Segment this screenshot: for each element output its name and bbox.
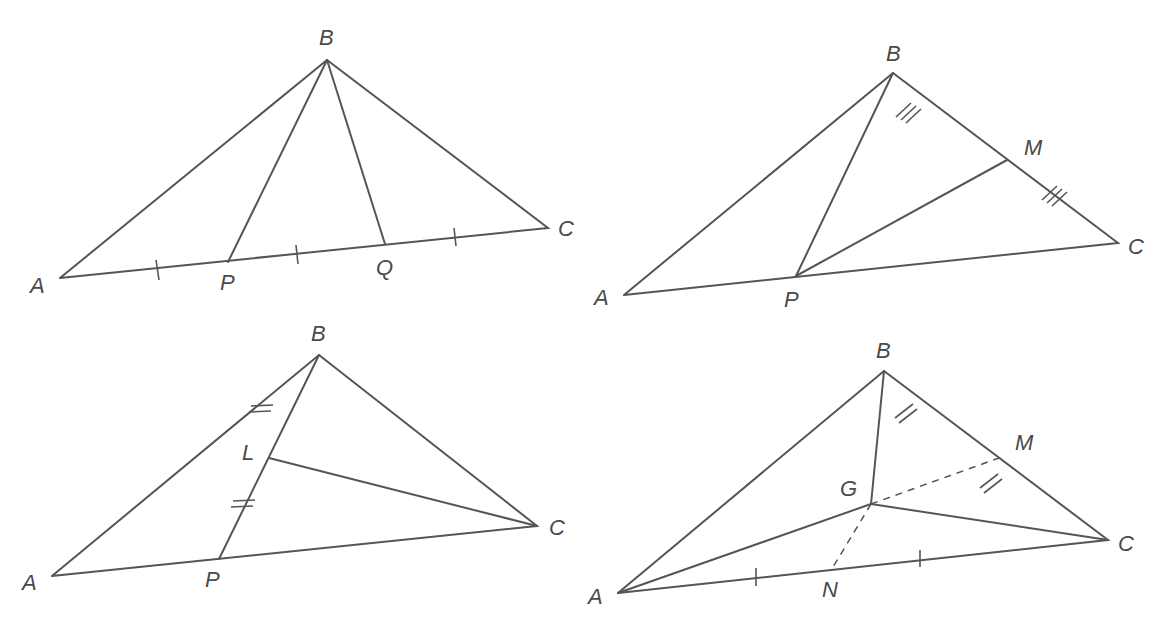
tick-mark-ap <box>156 260 159 280</box>
dashed-segment-gm <box>871 458 999 504</box>
triangle-abc-2 <box>624 73 1118 295</box>
label-m: M <box>1015 430 1034 455</box>
label-b: B <box>886 41 901 66</box>
label-b: B <box>311 321 326 346</box>
label-q: Q <box>376 255 393 280</box>
segment-gc <box>871 504 1108 540</box>
label-c: C <box>549 515 565 540</box>
double-tick-mc <box>980 474 1002 493</box>
segment-bg <box>871 371 884 504</box>
segment-lc <box>269 458 537 526</box>
label-a: A <box>592 285 609 310</box>
label-a: A <box>28 273 45 298</box>
segment-bq <box>327 60 385 244</box>
label-c: C <box>558 216 574 241</box>
label-l: L <box>242 440 254 465</box>
label-c: C <box>1128 234 1144 259</box>
label-n: N <box>822 577 838 602</box>
label-m: M <box>1024 135 1043 160</box>
figure-2-triangle-midpoint-m: A B C P M <box>592 41 1144 312</box>
label-p: P <box>205 567 220 592</box>
label-g: G <box>840 476 857 501</box>
tick-mark-qc <box>454 228 456 246</box>
label-c: C <box>1118 531 1134 556</box>
segment-bp <box>796 73 893 276</box>
double-tick-bm <box>895 404 917 423</box>
triangle-abc-4 <box>618 371 1108 593</box>
label-b: B <box>876 338 891 363</box>
figure-4-triangle-centroid: A B C G M N <box>586 338 1134 609</box>
label-p: P <box>784 287 799 312</box>
label-a: A <box>586 584 603 609</box>
double-tick-lp <box>231 500 255 507</box>
label-b: B <box>319 25 334 50</box>
figure-1-triangle-trisected-base: A B C P Q <box>28 25 574 298</box>
figure-3-triangle-midpoint-l: A B C P L <box>20 321 565 595</box>
triple-tick-bm <box>896 103 921 123</box>
tick-mark-pq <box>296 245 298 264</box>
geometry-figures: A B C P Q A B C P M <box>0 0 1171 638</box>
label-a: A <box>20 570 37 595</box>
segment-bp <box>228 60 327 262</box>
label-p: P <box>220 270 235 295</box>
triangle-abc-1 <box>60 60 548 278</box>
dashed-segment-gn <box>833 504 871 567</box>
